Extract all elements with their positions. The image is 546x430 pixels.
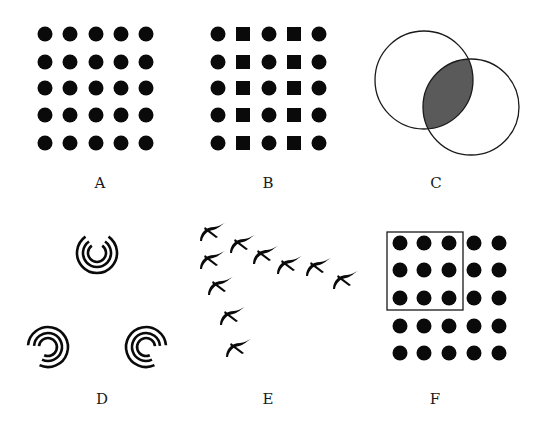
panel-d-label: D bbox=[96, 390, 108, 408]
panel-b-label: B bbox=[262, 174, 273, 192]
arc-group-right bbox=[119, 320, 170, 373]
row bbox=[38, 108, 154, 123]
panel-e-label: E bbox=[263, 390, 274, 408]
bird-icon bbox=[306, 258, 331, 276]
row bbox=[38, 81, 154, 96]
bird-icon bbox=[333, 271, 358, 289]
panel-f-dot-grid bbox=[393, 236, 507, 361]
bird-icon bbox=[277, 256, 302, 274]
row bbox=[393, 346, 507, 361]
bird-icon bbox=[230, 235, 255, 253]
bird-icon bbox=[226, 339, 251, 357]
gestalt-figure: A B C D bbox=[0, 0, 546, 430]
row bbox=[211, 108, 327, 123]
row bbox=[211, 55, 327, 70]
panel-f-label: F bbox=[430, 390, 440, 408]
row bbox=[393, 291, 507, 306]
arc-group-top bbox=[77, 237, 117, 273]
panel-e-birds bbox=[200, 223, 358, 357]
bird-icon bbox=[200, 251, 225, 269]
row bbox=[393, 319, 507, 334]
row bbox=[393, 263, 507, 278]
panel-d-arcs bbox=[24, 237, 170, 373]
arc-group-left bbox=[24, 320, 75, 373]
row bbox=[393, 236, 507, 251]
panel-a-dot-grid bbox=[38, 27, 154, 151]
bird-icon bbox=[200, 223, 225, 241]
panel-a-label: A bbox=[94, 174, 106, 192]
row bbox=[211, 81, 327, 96]
row bbox=[38, 27, 154, 42]
row bbox=[38, 136, 154, 151]
panel-c-label: C bbox=[430, 174, 441, 192]
bird-icon bbox=[220, 307, 245, 325]
row bbox=[211, 136, 327, 151]
row bbox=[38, 55, 154, 70]
panel-b-shape-grid bbox=[211, 27, 327, 151]
row bbox=[211, 27, 327, 42]
bird-icon bbox=[208, 277, 233, 295]
bird-icon bbox=[253, 246, 278, 264]
panel-c-venn bbox=[375, 31, 519, 155]
